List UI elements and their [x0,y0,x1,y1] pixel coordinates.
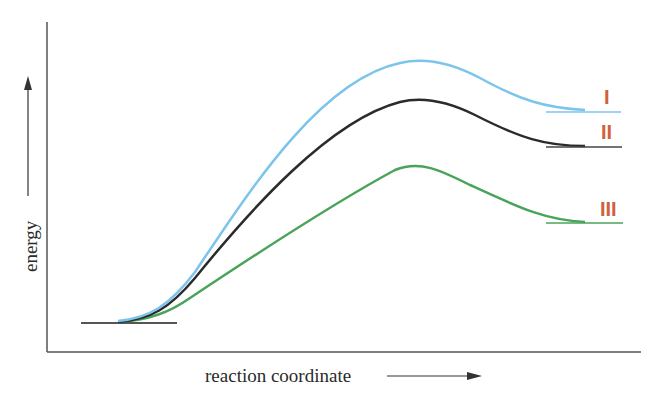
x-axis-label: reaction coordinate [205,365,351,386]
label-III: III [600,198,617,220]
curve-I [118,61,585,321]
curve-II [118,100,585,322]
energy-diagram: energy reaction coordinate I II III [0,0,657,398]
x-axis-arrow-icon [467,372,482,380]
y-axis-arrow-icon [24,76,32,90]
label-I: I [604,86,610,108]
y-axis-label: energy [20,220,41,272]
curve-III [118,166,585,322]
label-II: II [601,121,612,143]
